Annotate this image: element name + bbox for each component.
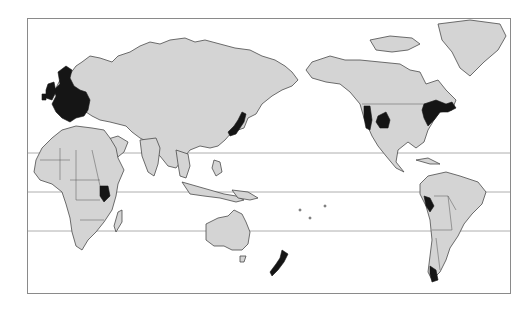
world-map [0,0,531,318]
highlight-british-isles [46,82,56,100]
canadian-arctic-islands [370,36,420,52]
tasmania [240,256,246,262]
pacific-island [324,205,326,207]
highlight-northeast-us-canada [422,100,456,126]
cuba [416,158,440,164]
greenland [438,20,506,76]
highlight-new-zealand [270,250,288,276]
highlight-us-west-coast [364,106,372,130]
madagascar [114,210,122,232]
southeast-asia [176,150,190,178]
highlight-ireland [42,94,46,100]
india [140,138,160,176]
pacific-island [309,217,311,219]
pacific-island [299,209,301,211]
south-america [420,172,486,280]
australia [206,210,250,250]
philippines [212,160,222,176]
